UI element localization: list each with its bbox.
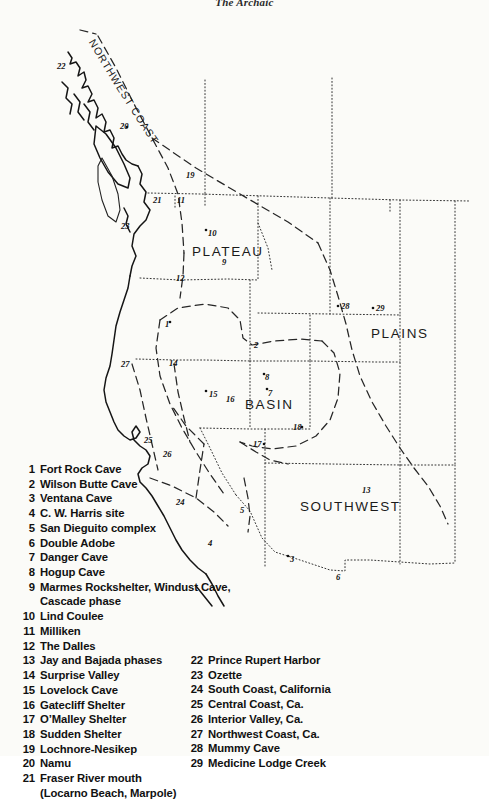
legend-item: 22Prince Rupert Harbor [184,653,384,668]
site-marker-25: 25 [143,435,153,445]
legend-item: 2Wilson Butte Cave [16,477,196,492]
site-marker-14: 14 [169,358,178,368]
site-marker-2: 2 [253,340,259,350]
legend-item: 21Fraser River mouth [16,771,196,786]
legend-item-label: The Dalles [40,639,196,654]
site-marker-13: 13 [362,485,371,495]
legend-item-number: 25 [184,697,203,712]
inland-water [98,158,120,222]
legend-item-label: (Locarno Beach, Marpole) [40,786,196,801]
legend-item-number: 4 [16,506,35,521]
legend-item-label: South Coast, California [208,682,384,697]
legend-item-label: Mummy Cave [208,741,384,756]
legend-item-label: Milliken [40,624,196,639]
legend-item-label: San Dieguito complex [40,521,196,536]
site-marker-5: 5 [240,505,245,515]
site-marker-16: 16 [226,394,235,404]
legend-item-label: Interior Valley, Ca. [208,712,384,727]
legend-item: 17O’Malley Shelter [16,712,196,727]
legend-item-label: Ventana Cave [40,491,196,506]
legend-item-number: 9 [16,580,35,595]
site-marker-10: 10 [208,228,217,238]
site-marker-19: 19 [186,170,195,180]
legend-item-number: 27 [184,727,203,742]
legend-item: 20Namu [16,756,196,771]
legend-item-number: 15 [16,683,35,698]
legend-item: 11Milliken [16,624,196,639]
legend-item-number: 5 [16,521,35,536]
legend-item: 29Medicine Lodge Creek [184,756,384,771]
legend-item-label: Namu [40,756,196,771]
legend-item-label: C. W. Harris site [40,506,196,521]
legend-column-left: 1Fort Rock Cave2Wilson Butte Cave3Ventan… [16,462,196,801]
legend-item-number: 19 [16,742,35,757]
site-marker-9: 9 [222,257,227,267]
legend-item-number: 11 [16,624,35,639]
legend-item: 4C. W. Harris site [16,506,196,521]
legend-item-label: Ozette [208,668,384,683]
legend-item-label: Medicine Lodge Creek [208,756,384,771]
legend-item: 10Lind Coulee [16,609,196,624]
site-marker-22: 22 [56,61,66,71]
legend-item: 5San Dieguito complex [16,521,196,536]
legend-item-number: 12 [16,639,35,654]
legend-item-number: 28 [184,741,203,756]
legend-item: (Locarno Beach, Marpole) [16,786,196,801]
region-label-plains: PLAINS [371,326,429,341]
region-label-southwest: SOUTHWEST [300,499,401,514]
legend-item-number: 26 [184,712,203,727]
legend-item: 6Double Adobe [16,536,196,551]
legend-item-number: 24 [184,682,203,697]
site-marker-28: 28 [340,301,350,311]
running-head: The Archaic [0,0,489,7]
legend-item-number: 21 [16,771,35,786]
legend-item-number: 16 [16,698,35,713]
site-marker-15: 15 [209,389,218,399]
legend-item-number: 1 [16,462,35,477]
legend-item: 8Hogup Cave [16,565,196,580]
legend-item: 26Interior Valley, Ca. [184,712,384,727]
site-marker-29: 29 [375,303,385,313]
legend-item-label: Fraser River mouth [40,771,196,786]
legend-item-number: 17 [16,712,35,727]
legend-item-number: 2 [16,477,35,492]
site-marker-6: 6 [336,572,341,582]
site-marker-11: 11 [177,195,185,205]
legend-item-label: Northwest Coast, Ca. [208,727,384,742]
legend-item-label: Wilson Butte Cave [40,477,196,492]
site-marker-4: 4 [207,538,213,548]
legend-item-label: Lind Coulee [40,609,196,624]
legend-item: 7Danger Cave [16,550,196,565]
legend-item-label: Danger Cave [40,550,196,565]
legend-item: 27Northwest Coast, Ca. [184,727,384,742]
legend-item-label: Central Coast, Ca. [208,697,384,712]
legend-item-label: Sudden Shelter [40,727,196,742]
legend-item: Cascade phase [16,594,196,609]
legend-item-number: 8 [16,565,35,580]
legend-item: 1Fort Rock Cave [16,462,196,477]
legend-item: 25Central Coast, Ca. [184,697,384,712]
site-marker-12: 12 [176,273,185,283]
site-marker-3: 3 [289,554,295,564]
legend-item-label: Marmes Rockshelter, Windust Cave, [40,580,231,595]
site-marker-27: 27 [120,359,130,369]
legend-item: 14Surprise Valley [16,668,196,683]
legend-item-number: 6 [16,536,35,551]
legend-item-number: 14 [16,668,35,683]
legend-item: 16Gatecliff Shelter [16,698,196,713]
legend-item-label: Fort Rock Cave [40,462,196,477]
legend-item-label: Gatecliff Shelter [40,698,196,713]
legend-item-label: Surprise Valley [40,668,196,683]
legend-item-number: 23 [184,668,203,683]
site-marker-17: 17 [253,439,262,449]
legend-item-number: 7 [16,550,35,565]
legend-item: 3Ventana Cave [16,491,196,506]
legend-item-number: 22 [184,653,203,668]
legend-item-number: 20 [16,756,35,771]
legend-item: 12The Dalles [16,639,196,654]
legend-item-label: Double Adobe [40,536,196,551]
legend-item-label: Prince Rupert Harbor [208,653,384,668]
legend-item-number: 29 [184,756,203,771]
site-marker-21: 21 [152,195,162,205]
